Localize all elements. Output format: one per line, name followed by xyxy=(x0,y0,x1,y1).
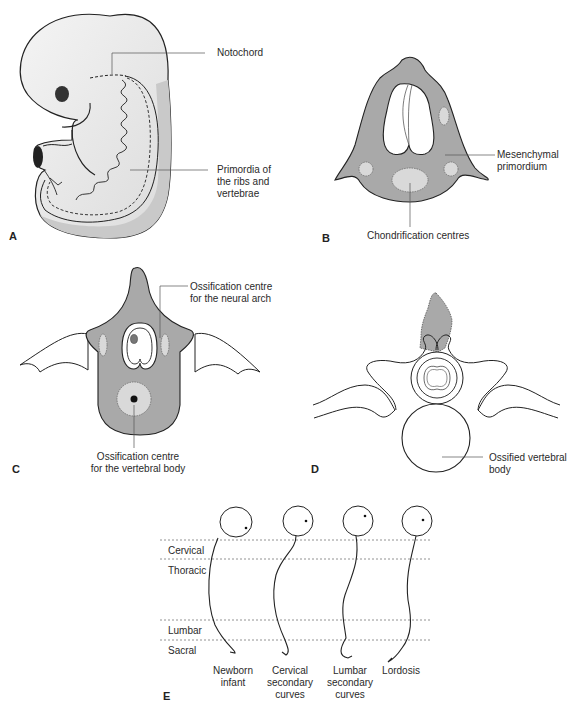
panel-e-spinal-curves xyxy=(160,506,432,662)
panel-a-embryo xyxy=(20,14,208,238)
panel-letter-c: C xyxy=(12,463,20,475)
region-label-thoracic: Thoracic xyxy=(168,565,206,577)
panel-d-ossified-vertebra xyxy=(313,293,560,472)
panel-b-mesenchymal-primordium xyxy=(335,57,495,227)
label-ossification-vertebral-body: Ossification centre for the vertebral bo… xyxy=(88,451,188,475)
label-primordia-ribs-vertebrae: Primordia of the ribs and vertebrae xyxy=(217,164,271,200)
label-ossification-neural-arch: Ossification centre for the neural arch xyxy=(190,281,272,305)
stage-label-lumbar-secondary-curves: Lumbar secondary curves xyxy=(322,665,378,701)
panel-letter-e: E xyxy=(163,690,170,702)
eye-icon xyxy=(55,86,69,102)
label-ossified-vertebral-body: Ossified vertebral body xyxy=(489,452,567,476)
region-label-lumbar: Lumbar xyxy=(168,625,202,637)
panel-letter-d: D xyxy=(311,463,319,475)
figure-illustrations xyxy=(0,0,570,712)
region-label-sacral: Sacral xyxy=(168,645,196,657)
label-mesenchymal-primordium: Mesenchymal primordium xyxy=(497,149,559,173)
stage-label-newborn-infant: Newborn infant xyxy=(208,665,258,689)
stage-label-lordosis: Lordosis xyxy=(376,665,426,677)
region-label-cervical: Cervical xyxy=(168,545,204,557)
stage-label-cervical-secondary-curves: Cervical secondary curves xyxy=(262,665,318,701)
panel-letter-a: A xyxy=(9,230,17,242)
label-notochord: Notochord xyxy=(217,47,263,59)
label-chondrification-centres: Chondrification centres xyxy=(367,230,469,242)
panel-letter-b: B xyxy=(322,232,330,244)
